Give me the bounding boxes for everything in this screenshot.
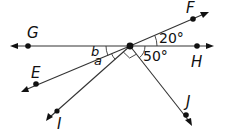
arc-a (112, 54, 116, 60)
label-i: I (57, 115, 62, 130)
arrowhead-h-icon (206, 43, 214, 49)
ray-i (50, 46, 130, 117)
point-i (54, 108, 59, 113)
point-e (33, 81, 39, 87)
angle-label-50: 50° (143, 48, 168, 64)
label-e: E (31, 64, 41, 82)
angle-diagram: G H F E I J 20° 50° b a (0, 0, 228, 130)
label-h: H (191, 53, 202, 71)
point-j (183, 112, 189, 118)
arrowhead-i-icon (46, 113, 53, 121)
point-f (190, 16, 196, 22)
arrowhead-e-icon (21, 86, 29, 92)
label-j: J (183, 93, 190, 111)
point-g (25, 43, 31, 49)
right-angle-marker (123, 52, 136, 58)
angle-label-20: 20° (159, 30, 184, 46)
arrowhead-j-icon (185, 118, 192, 126)
ray-e (25, 46, 130, 90)
point-h (194, 43, 200, 49)
arc-20deg (155, 35, 157, 46)
vertex-point (127, 43, 134, 50)
arrowhead-g-icon (10, 43, 18, 49)
arc-b (106, 46, 108, 55)
angle-label-a: a (94, 53, 102, 68)
label-g: G (27, 24, 39, 42)
label-f: F (186, 0, 195, 17)
